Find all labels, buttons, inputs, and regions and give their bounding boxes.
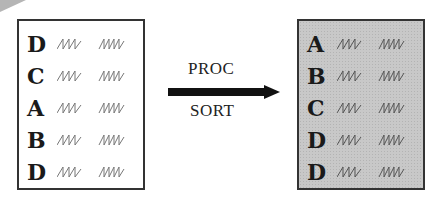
right-arrow-icon [168,85,280,99]
data-squiggle-icon [337,133,417,147]
page-corner-decoration [0,0,26,12]
output-row: D [307,157,417,187]
output-row: D [307,125,417,155]
data-squiggle-icon [57,101,137,115]
data-squiggle-icon [57,69,137,83]
sort-key: C [307,97,329,119]
sort-key: D [307,161,329,183]
sort-key: D [27,161,49,183]
sort-key: C [27,65,49,87]
input-row: D [27,157,137,187]
sort-key: D [27,33,49,55]
output-row: B [307,61,417,91]
output-row: A [307,29,417,59]
sort-key: B [307,65,329,87]
input-row: D [27,29,137,59]
input-dataset-box: D C A B D [17,19,145,190]
sort-key: A [307,33,329,55]
input-row: B [27,125,137,155]
sort-key: A [27,97,49,119]
process-label-proc: PROC [188,59,234,79]
output-row: C [307,93,417,123]
input-row: A [27,93,137,123]
data-squiggle-icon [57,133,137,147]
data-squiggle-icon [337,165,417,179]
data-squiggle-icon [337,69,417,83]
sort-key: B [27,129,49,151]
output-dataset-box: A B C D D [297,19,425,190]
data-squiggle-icon [337,101,417,115]
process-label-sort: SORT [190,101,234,121]
sort-key: D [307,129,329,151]
data-squiggle-icon [57,37,137,51]
data-squiggle-icon [337,37,417,51]
data-squiggle-icon [57,165,137,179]
input-row: C [27,61,137,91]
